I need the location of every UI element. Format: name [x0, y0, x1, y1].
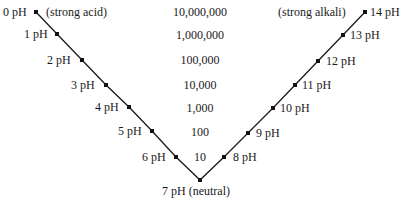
- neutral-label: 7 pH (neutral): [162, 184, 230, 198]
- ph-point-3: [104, 83, 108, 87]
- ph-point-9: [246, 131, 250, 135]
- ph-point-1: [55, 32, 59, 36]
- ph-point-13: [341, 33, 345, 37]
- ph-point-7: [198, 178, 202, 182]
- multiplier-2: 100,000: [160, 53, 240, 67]
- alkali-note: (strong alkali): [278, 5, 346, 19]
- multiplier-4: 1,000: [160, 101, 240, 115]
- ph-label: 10 pH: [280, 101, 310, 115]
- multiplier-3: 10,000: [160, 78, 240, 92]
- ph-point-4: [127, 105, 131, 109]
- ph-label: 2 pH: [47, 53, 71, 67]
- ph-label: 5 pH: [118, 124, 142, 138]
- multiplier-5: 100: [160, 125, 240, 139]
- ph-label: 1 pH: [24, 27, 48, 41]
- ph-point-11: [293, 83, 297, 87]
- acid-note: (strong acid): [46, 5, 107, 19]
- multiplier-0: 10,000,000: [160, 5, 240, 19]
- ph-label: 9 pH: [256, 126, 280, 140]
- ph-label: 11 pH: [302, 78, 331, 92]
- ph-label: 12 pH: [326, 54, 356, 68]
- multiplier-1: 1,000,000: [160, 28, 240, 42]
- ph-point-5: [150, 129, 154, 133]
- ph-label: 0 pH: [3, 5, 27, 19]
- multiplier-6: 10: [160, 150, 240, 164]
- ph-label: 13 pH: [350, 28, 380, 42]
- ph-label: 3 pH: [71, 78, 95, 92]
- ph-point-14: [363, 10, 367, 14]
- ph-label: 14 pH: [370, 5, 400, 19]
- ph-point-0: [34, 10, 38, 14]
- ph-point-12: [316, 59, 320, 63]
- ph-label: 4 pH: [95, 100, 119, 114]
- ph-point-10: [271, 106, 275, 110]
- ph-point-2: [80, 58, 84, 62]
